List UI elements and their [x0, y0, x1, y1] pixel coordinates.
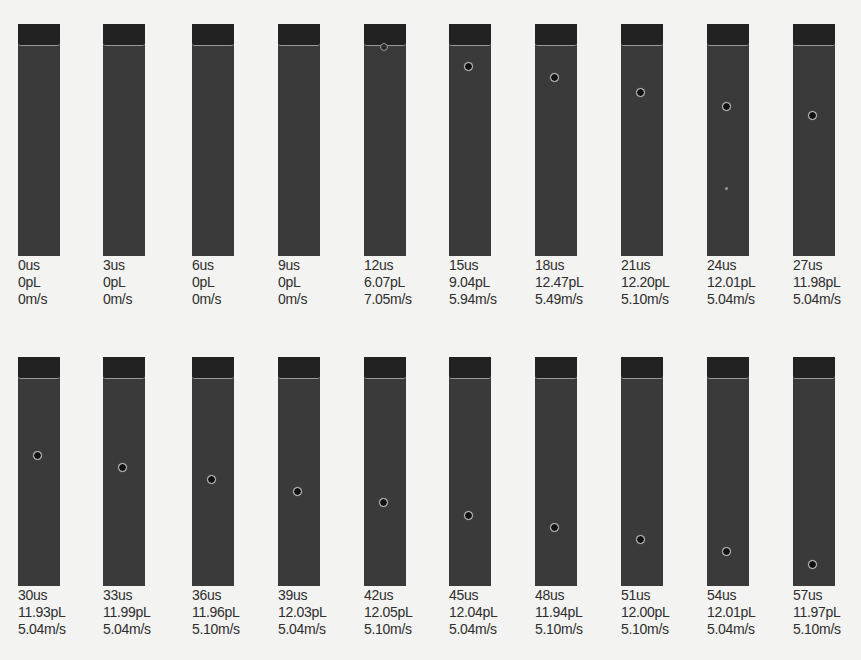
- nozzle-plate: [707, 357, 749, 379]
- nozzle-plate: [449, 357, 491, 379]
- nozzle-plate: [793, 24, 835, 46]
- frame-labels: 9us0pL0m/s: [278, 257, 358, 308]
- volume-label: 11.93pL: [18, 604, 98, 621]
- droplet: [550, 73, 559, 82]
- time-label: 12us: [364, 257, 444, 274]
- frame-labels: 6us0pL0m/s: [192, 257, 272, 308]
- time-label: 36us: [192, 587, 272, 604]
- volume-label: 12.01pL: [707, 274, 787, 291]
- droplet: [636, 88, 645, 97]
- frame-labels: 39us12.03pL5.04m/s: [278, 587, 358, 638]
- time-label: 15us: [449, 257, 529, 274]
- camera-frame-image: [103, 24, 145, 256]
- droplet-sequence-figure: 0us0pL0m/s3us0pL0m/s6us0pL0m/s9us0pL0m/s…: [0, 0, 861, 660]
- time-label: 51us: [621, 587, 701, 604]
- velocity-label: 5.49m/s: [535, 291, 615, 308]
- velocity-label: 5.04m/s: [103, 621, 183, 638]
- camera-frame-image: [621, 24, 663, 256]
- frame-labels: 33us11.99pL5.04m/s: [103, 587, 183, 638]
- volume-label: 11.94pL: [535, 604, 615, 621]
- volume-label: 0pL: [192, 274, 272, 291]
- time-label: 6us: [192, 257, 272, 274]
- time-label: 33us: [103, 587, 183, 604]
- droplet: [636, 535, 645, 544]
- volume-label: 12.47pL: [535, 274, 615, 291]
- nozzle-plate: [18, 24, 60, 46]
- camera-frame-image: [278, 357, 320, 586]
- droplet: [550, 523, 559, 532]
- volume-label: 11.97pL: [793, 604, 861, 621]
- camera-frame-image: [535, 357, 577, 586]
- frame-labels: 18us12.47pL5.49m/s: [535, 257, 615, 308]
- droplet: [207, 475, 216, 484]
- camera-frame-image: [192, 24, 234, 256]
- volume-label: 11.96pL: [192, 604, 272, 621]
- time-label: 21us: [621, 257, 701, 274]
- frame-labels: 3us0pL0m/s: [103, 257, 183, 308]
- nozzle-plate: [364, 357, 406, 379]
- nozzle-plate: [621, 24, 663, 46]
- velocity-label: 5.10m/s: [621, 621, 701, 638]
- time-label: 42us: [364, 587, 444, 604]
- time-label: 24us: [707, 257, 787, 274]
- frame-labels: 36us11.96pL5.10m/s: [192, 587, 272, 638]
- droplet: [118, 463, 127, 472]
- time-label: 30us: [18, 587, 98, 604]
- camera-frame-image: [364, 24, 406, 256]
- nozzle-plate: [18, 357, 60, 379]
- velocity-label: 0m/s: [278, 291, 358, 308]
- frame-labels: 12us6.07pL7.05m/s: [364, 257, 444, 308]
- volume-label: 12.04pL: [449, 604, 529, 621]
- nozzle-plate: [535, 24, 577, 46]
- nozzle-plate: [707, 24, 749, 46]
- camera-frame-image: [192, 357, 234, 586]
- volume-label: 11.98pL: [793, 274, 861, 291]
- frame-labels: 45us12.04pL5.04m/s: [449, 587, 529, 638]
- meniscus-bulge: [380, 43, 388, 51]
- nozzle-plate: [278, 357, 320, 379]
- frame-labels: 42us12.05pL5.10m/s: [364, 587, 444, 638]
- droplet: [722, 102, 731, 111]
- frame-labels: 51us12.00pL5.10m/s: [621, 587, 701, 638]
- time-label: 18us: [535, 257, 615, 274]
- camera-frame-image: [707, 357, 749, 586]
- volume-label: 12.01pL: [707, 604, 787, 621]
- velocity-label: 7.05m/s: [364, 291, 444, 308]
- droplet: [808, 560, 817, 569]
- velocity-label: 5.10m/s: [364, 621, 444, 638]
- volume-label: 11.99pL: [103, 604, 183, 621]
- nozzle-plate: [103, 24, 145, 46]
- camera-frame-image: [18, 357, 60, 586]
- droplet: [293, 487, 302, 496]
- velocity-label: 5.04m/s: [707, 291, 787, 308]
- camera-frame-image: [793, 357, 835, 586]
- time-label: 0us: [18, 257, 98, 274]
- camera-frame-image: [18, 24, 60, 256]
- volume-label: 9.04pL: [449, 274, 529, 291]
- volume-label: 6.07pL: [364, 274, 444, 291]
- velocity-label: 5.10m/s: [192, 621, 272, 638]
- droplet: [379, 498, 388, 507]
- frame-labels: 54us12.01pL5.04m/s: [707, 587, 787, 638]
- time-label: 27us: [793, 257, 861, 274]
- satellite-droplet: [725, 187, 728, 190]
- camera-frame-image: [449, 357, 491, 586]
- nozzle-plate: [278, 24, 320, 46]
- camera-frame-image: [621, 357, 663, 586]
- velocity-label: 0m/s: [18, 291, 98, 308]
- frame-labels: 27us11.98pL5.04m/s: [793, 257, 861, 308]
- camera-frame-image: [364, 357, 406, 586]
- nozzle-plate: [449, 24, 491, 46]
- velocity-label: 5.04m/s: [449, 621, 529, 638]
- velocity-label: 5.04m/s: [707, 621, 787, 638]
- time-label: 9us: [278, 257, 358, 274]
- nozzle-plate: [793, 357, 835, 379]
- nozzle-plate: [192, 24, 234, 46]
- volume-label: 0pL: [18, 274, 98, 291]
- frame-labels: 48us11.94pL5.10m/s: [535, 587, 615, 638]
- droplet: [722, 547, 731, 556]
- volume-label: 12.03pL: [278, 604, 358, 621]
- volume-label: 12.20pL: [621, 274, 701, 291]
- velocity-label: 5.04m/s: [278, 621, 358, 638]
- volume-label: 0pL: [278, 274, 358, 291]
